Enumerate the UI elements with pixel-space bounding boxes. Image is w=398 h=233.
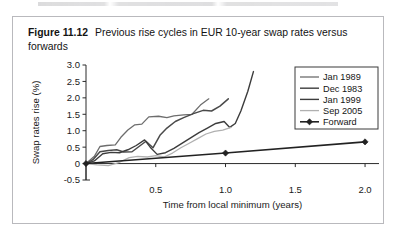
line-chart: 3.02.52.01.51.00.50-0.50.51.01.52.0Time … <box>13 57 385 223</box>
page-text-bleed <box>38 2 338 6</box>
x-tick-label: 1.0 <box>219 184 232 195</box>
x-tick-label: 2.0 <box>358 184 371 195</box>
series-marker-forward <box>362 139 368 145</box>
y-tick-label: 2.0 <box>67 92 80 103</box>
x-tick-label: 0.5 <box>149 184 162 195</box>
y-tick-label: 0 <box>75 158 80 169</box>
y-tick-label: 3.0 <box>67 59 80 70</box>
x-tick-label: 1.5 <box>289 184 302 195</box>
x-axis-title: Time from local minimum (years) <box>163 199 302 210</box>
legend-label-sep-2005: Sep 2005 <box>323 106 362 116</box>
y-tick-label: 0.5 <box>67 142 80 153</box>
y-axis-title: Swap rates rise (%) <box>30 81 41 165</box>
figure-caption: Figure 11.12Previous rise cycles in EUR … <box>28 26 368 53</box>
legend-label-jan-1999: Jan 1999 <box>323 95 361 105</box>
series-marker-forward <box>222 150 228 156</box>
figure-container: Figure 11.12Previous rise cycles in EUR … <box>12 16 384 224</box>
legend-label-jan-1989: Jan 1989 <box>323 72 361 82</box>
y-tick-label: 1.5 <box>67 109 80 120</box>
figure-number: Figure 11.12 <box>28 27 88 38</box>
legend-label-forward: Forward <box>323 117 357 127</box>
series-line-sep-2005 <box>86 127 231 165</box>
legend-label-dec-1983: Dec 1983 <box>323 84 362 94</box>
chart-plot-area: 3.02.52.01.51.00.50-0.50.51.01.52.0Time … <box>13 57 385 223</box>
y-tick-label: 2.5 <box>67 76 80 87</box>
y-tick-label: -0.5 <box>64 174 80 185</box>
y-tick-label: 1.0 <box>67 125 80 136</box>
